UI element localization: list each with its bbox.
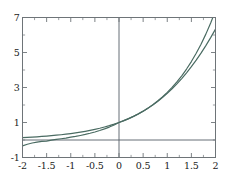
x-tick-label: 0	[116, 161, 122, 171]
chart-figure: 7531-1-2-1.5-1-0.500.511.52	[0, 0, 230, 179]
x-tick-label: 1	[164, 161, 170, 171]
x-tick-label: -1	[66, 161, 75, 171]
y-tick-label: 1	[14, 118, 20, 128]
x-tick-label: -0.5	[86, 161, 104, 171]
x-tick-label: -1.5	[38, 161, 56, 171]
y-tick-label: 7	[14, 13, 20, 23]
y-tick-label: 3	[14, 83, 20, 93]
x-tick-label: 1.5	[184, 161, 199, 171]
x-tick-label: 0.5	[136, 161, 151, 171]
y-tick-label: 5	[14, 48, 20, 58]
x-tick-label: -2	[18, 161, 27, 171]
plot-canvas	[0, 0, 230, 179]
x-tick-label: 2	[213, 161, 219, 171]
